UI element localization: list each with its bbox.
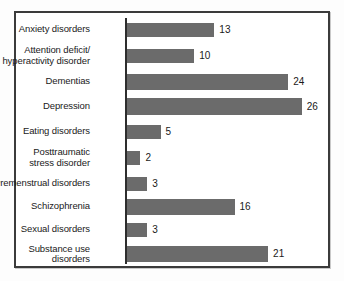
bar-chart-figure: Anxiety disorders13Attention deficit/ hy… — [0, 0, 344, 281]
bar-category-label: Sexual disorders — [0, 224, 90, 235]
bar-rect — [127, 98, 302, 115]
bar-category-label: Dementias — [0, 76, 90, 87]
bar-value-label: 10 — [199, 51, 210, 61]
bar-category-label: Attention deficit/ hyperactivity disorde… — [0, 45, 90, 66]
bar-row: Posttraumatic stress disorder2 — [16, 145, 328, 170]
bar-value-label: 3 — [152, 179, 158, 189]
bar-category-label: Eating disorders — [0, 126, 90, 137]
bar-value-label: 3 — [152, 225, 158, 235]
bar-row: Anxiety disorders13 — [16, 21, 328, 38]
bar-row: Premenstrual disorders3 — [16, 175, 328, 192]
bar-track: 10 — [127, 43, 210, 68]
bar-value-label: 21 — [273, 249, 284, 259]
bar-value-label: 13 — [219, 25, 230, 35]
bar-rect — [127, 246, 268, 262]
bar-rect — [127, 223, 147, 237]
bar-value-label: 2 — [145, 153, 151, 163]
bar-rect — [127, 199, 235, 215]
plot-area: Anxiety disorders13Attention deficit/ hy… — [16, 13, 328, 266]
bar-category-label: Depression — [0, 101, 90, 112]
bar-row: Dementias24 — [16, 73, 328, 90]
bar-category-label: Schizophrenia — [0, 201, 90, 212]
bar-category-label: Premenstrual disorders — [0, 178, 90, 189]
bar-rect — [127, 74, 288, 90]
bar-row: Depression26 — [16, 97, 328, 116]
bar-row: Attention deficit/ hyperactivity disorde… — [16, 43, 328, 68]
bar-track: 24 — [127, 73, 304, 90]
bar-row: Eating disorders5 — [16, 123, 328, 140]
bar-track: 13 — [127, 21, 230, 38]
bar-row: Schizophrenia16 — [16, 197, 328, 216]
bar-track: 3 — [127, 221, 158, 238]
bar-value-label: 24 — [293, 77, 304, 87]
bar-track: 5 — [127, 123, 171, 140]
bar-track: 2 — [127, 145, 151, 170]
bar-track: 21 — [127, 242, 284, 266]
bar-category-label: Posttraumatic stress disorder — [0, 147, 90, 168]
bar-row: Sexual disorders3 — [16, 221, 328, 238]
bar-rect — [127, 125, 161, 139]
bar-value-label: 5 — [166, 127, 172, 137]
bar-rect — [127, 177, 147, 191]
bar-track: 26 — [127, 97, 318, 116]
bar-track: 16 — [127, 197, 251, 216]
bar-rect — [127, 23, 214, 37]
bar-track: 3 — [127, 175, 158, 192]
bar-row: Substance use disorders21 — [16, 242, 328, 266]
bar-rect — [127, 151, 140, 165]
bar-value-label: 26 — [307, 102, 318, 112]
bar-category-label: Anxiety disorders — [0, 24, 90, 35]
bar-category-label: Substance use disorders — [0, 244, 90, 265]
bar-value-label: 16 — [240, 202, 251, 212]
chart-frame-border: Anxiety disorders13Attention deficit/ hy… — [14, 11, 330, 268]
bar-rect — [127, 49, 194, 63]
